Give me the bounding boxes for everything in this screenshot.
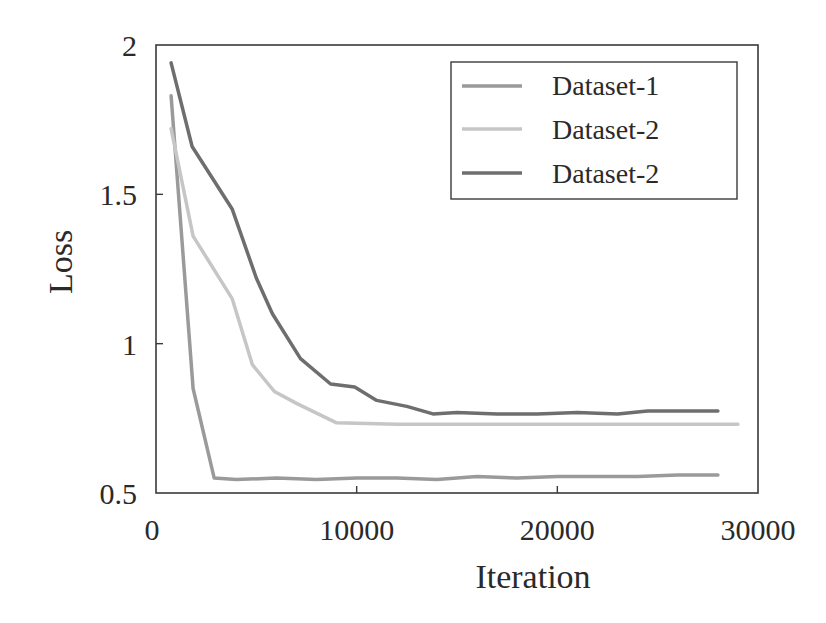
- legend-label-dataset-2-dark: Dataset-2: [552, 158, 659, 189]
- legend-label-dataset-1: Dataset-1: [552, 70, 659, 101]
- y-tick-label: 1.5: [100, 178, 138, 211]
- y-tick-label: 2: [122, 29, 137, 62]
- x-axis-title: Iteration: [475, 558, 590, 595]
- x-tick-label: 20000: [520, 513, 595, 546]
- y-tick-label: 0.5: [100, 477, 138, 510]
- legend: Dataset-1 Dataset-2 Dataset-2: [451, 62, 737, 199]
- y-tick-label: 1: [122, 328, 137, 361]
- legend-label-dataset-2: Dataset-2: [552, 114, 659, 145]
- x-tick-label: 10000: [319, 513, 394, 546]
- x-axis-ticks: 0100002000030000: [145, 486, 796, 546]
- loss-chart: 0100002000030000 0.511.52 Iteration Loss…: [0, 0, 826, 623]
- y-axis-ticks: 0.511.52: [100, 29, 164, 510]
- x-tick-label: 30000: [721, 513, 796, 546]
- x-tick-label: 0: [145, 513, 160, 546]
- y-axis-title: Loss: [42, 230, 79, 294]
